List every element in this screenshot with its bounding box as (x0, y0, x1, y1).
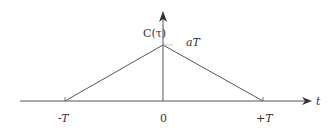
y-axis-label: C(τ) (143, 27, 166, 40)
triangle-curve (65, 45, 263, 101)
tick-label-zero: 0 (160, 112, 167, 125)
x-axis-label: t (316, 95, 321, 108)
tick-label-pos-t: +T (256, 112, 274, 125)
tick-label-neg-t: -T (58, 112, 70, 125)
triangle-autocorrelation-diagram: C(τ) aT t -T 0 +T (0, 0, 327, 129)
peak-label: aT (186, 36, 202, 49)
